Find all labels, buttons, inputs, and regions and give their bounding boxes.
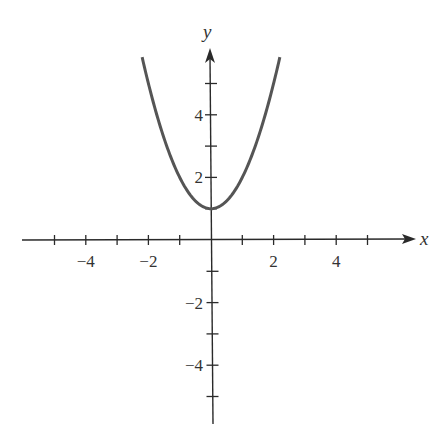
x-axis-line: [22, 239, 408, 240]
y-axis-tick-labels: 42−2−4: [185, 106, 204, 375]
x-axis-label: x: [419, 228, 429, 249]
x-tick-label: 2: [269, 252, 278, 271]
x-tick-label: 4: [332, 252, 341, 271]
x-axis-tick-labels: −4−224: [77, 252, 341, 271]
y-tick-label: 2: [195, 168, 204, 187]
y-tick-label: −2: [185, 294, 203, 313]
x-tick-label: −4: [77, 252, 96, 271]
parabola-chart: −4−224 42−2−4 x y: [0, 0, 442, 435]
y-tick-label: −4: [185, 356, 204, 375]
x-tick-label: −2: [139, 252, 157, 271]
y-axis-label: y: [201, 21, 212, 42]
y-tick-label: 4: [195, 106, 204, 125]
y-axis: [205, 48, 215, 424]
x-axis: [22, 234, 416, 244]
